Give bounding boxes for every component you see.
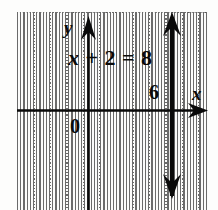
equation-addend: 2 — [105, 45, 117, 70]
x-intercept-label: 6 — [149, 82, 159, 102]
x-axis-label: x — [192, 84, 202, 103]
equation-left-variable: x — [68, 45, 80, 70]
math-figure-graph: y x 0 6 x + 2 = 8 — [0, 0, 218, 210]
equation-annotation: x + 2 = 8 — [68, 45, 153, 71]
equation-plus-sign: + — [86, 45, 99, 70]
equation-equals-sign: = — [122, 45, 135, 70]
equation-result: 8 — [141, 45, 153, 70]
graph-line-x-equals-6 — [0, 0, 218, 210]
y-axis-label: y — [64, 18, 72, 37]
origin-label: 0 — [70, 116, 80, 136]
